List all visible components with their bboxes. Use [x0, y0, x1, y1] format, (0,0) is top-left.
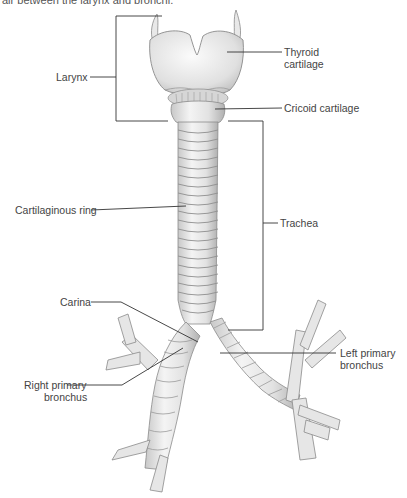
label-thyroid-cartilage: Thyroid cartilage — [284, 46, 324, 70]
label-right-bronchus-line2: bronchus — [44, 391, 94, 403]
label-right-primary-bronchus: Right primary bronchus — [26, 379, 94, 403]
right-primary-bronchus-shape — [145, 322, 200, 470]
label-right-bronchus-line1: Right primary — [24, 379, 94, 391]
label-cricoid-cartilage: Cricoid cartilage — [284, 102, 359, 114]
label-trachea: Trachea — [280, 217, 318, 229]
left-secondary-bronchi — [286, 300, 346, 460]
label-left-bronchus-line2: bronchus — [340, 359, 395, 371]
label-thyroid-line1: Thyroid — [284, 46, 324, 58]
label-larynx: Larynx — [56, 71, 88, 83]
cricoid-cartilage-shape — [171, 101, 225, 125]
label-carina: Carina — [60, 296, 91, 308]
label-left-bronchus-line1: Left primary — [340, 347, 395, 359]
label-thyroid-line2: cartilage — [284, 58, 324, 70]
thyroid-cartilage-shape — [150, 31, 244, 94]
label-left-primary-bronchus: Left primary bronchus — [340, 347, 395, 371]
label-cartilaginous-ring: Cartilaginous ring — [15, 204, 97, 216]
